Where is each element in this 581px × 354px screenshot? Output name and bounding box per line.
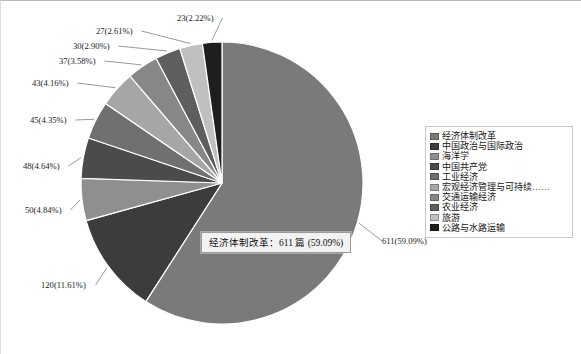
data-label: 43(4.16%) [32,78,69,88]
legend-item[interactable]: 交通运输经济 [430,192,569,202]
legend-item[interactable]: 农业经济 [430,202,569,212]
leader-line [96,268,107,285]
legend: 经济体制改革中国政治与国际政治海洋学中国共产党工业经济宏观经济管理与可持续……交… [425,126,573,238]
leader-line [70,200,80,210]
data-label: 45(4.35%) [30,115,67,125]
legend-swatch-icon [430,153,439,160]
legend-item-label: 旅游 [442,213,460,223]
leader-line [359,223,382,241]
data-label: 50(4.84%) [25,205,62,215]
legend-swatch-icon [430,214,439,221]
legend-item-label: 海洋学 [442,151,469,161]
legend-item-label: 经济体制改革 [442,131,496,141]
legend-item[interactable]: 中国共产党 [430,162,569,172]
legend-item[interactable]: 公路与水路运输 [430,223,569,233]
legend-swatch-icon [430,133,439,140]
legend-item[interactable]: 中国政治与国际政治 [430,141,569,151]
leader-line [118,46,167,51]
legend-swatch-icon [430,173,439,180]
data-label: 48(4.64%) [23,161,60,171]
legend-swatch-icon [430,184,439,191]
data-label: 37(3.58%) [59,56,96,66]
leader-line [104,61,141,65]
legend-swatch-icon [430,194,439,201]
legend-item-label: 工业经济 [442,172,478,182]
legend-item[interactable]: 海洋学 [430,151,569,161]
legend-item[interactable]: 旅游 [430,213,569,223]
slice-tooltip: 经济体制改革：611 篇 (59.09%) [201,232,351,253]
legend-swatch-icon [430,224,439,231]
legend-item-label: 农业经济 [442,202,478,212]
leader-line [141,31,190,44]
leader-line [77,83,115,88]
legend-swatch-icon [430,163,439,170]
data-label: 27(2.61%) [96,26,133,36]
legend-item-label: 公路与水路运输 [442,223,505,233]
legend-item-label: 宏观经济管理与可持续…… [442,182,550,192]
data-label: 23(2.22%) [177,13,214,23]
leader-line [68,158,81,167]
legend-item[interactable]: 经济体制改革 [430,131,569,141]
data-label: 120(11.61%) [41,280,86,290]
data-label: 30(2.90%) [73,41,110,51]
data-label: 611(59.09%) [382,236,427,246]
legend-swatch-icon [430,143,439,150]
legend-swatch-icon [430,204,439,211]
leader-line [212,18,222,40]
legend-item-label: 交通运输经济 [442,192,496,202]
pie-slices [81,42,363,324]
legend-item-label: 中国政治与国际政治 [442,141,523,151]
leader-line [75,119,94,120]
legend-item-label: 中国共产党 [442,162,487,172]
legend-item[interactable]: 工业经济 [430,172,569,182]
legend-item[interactable]: 宏观经济管理与可持续…… [430,182,569,192]
chart-frame: 611(59.09%)120(11.61%)50(4.84%)48(4.64%)… [0,0,581,354]
